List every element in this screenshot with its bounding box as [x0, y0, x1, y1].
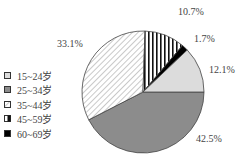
legend-swatch-light-gray — [4, 72, 11, 79]
legend-item-25-34: 25~34岁 — [4, 83, 52, 98]
legend-label: 15~24岁 — [17, 68, 52, 83]
slice-label-45-59: 1.7% — [194, 33, 215, 44]
legend: 15~24岁 25~34岁 35~44岁 45~59岁 60~69岁 — [4, 68, 52, 141]
slice-label-35-44: 33.1% — [57, 38, 83, 49]
legend-swatch-diagonal — [4, 101, 11, 108]
legend-item-35-44: 35~44岁 — [4, 97, 52, 112]
legend-item-45-59: 45~59岁 — [4, 112, 52, 127]
slice-label-60-69: 10.7% — [178, 6, 204, 17]
legend-swatch-stripes — [4, 115, 11, 122]
slice-label-25-34: 42.5% — [196, 133, 222, 144]
legend-label: 25~34岁 — [17, 82, 52, 97]
legend-label: 60~69岁 — [17, 126, 52, 141]
legend-item-15-24: 15~24岁 — [4, 68, 52, 83]
slice-label-15-24: 12.1% — [209, 64, 235, 75]
legend-item-60-69: 60~69岁 — [4, 126, 52, 141]
legend-swatch-black — [4, 130, 11, 137]
legend-label: 45~59岁 — [17, 111, 52, 126]
legend-swatch-dark-gray — [4, 86, 11, 93]
legend-label: 35~44岁 — [17, 97, 52, 112]
